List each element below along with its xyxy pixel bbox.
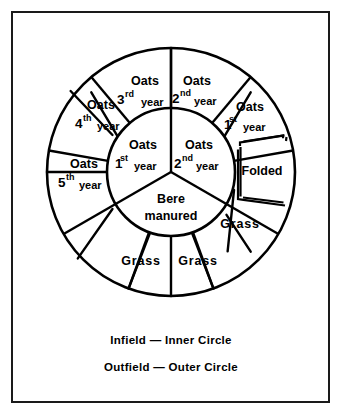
label-ordinal-suffix: nd	[182, 153, 193, 163]
label-main: Folded	[242, 164, 283, 178]
label-main: Oats	[131, 74, 159, 88]
label-sub: manured	[145, 209, 198, 223]
label-ordinal-suffix: th	[66, 172, 75, 182]
label-ordinal-suffix: nd	[180, 88, 191, 98]
label-unit: year	[141, 96, 164, 108]
label-main: Grass	[178, 254, 217, 268]
label-ordinal-number: 3	[117, 92, 125, 107]
label-ordinal-suffix: rd	[125, 89, 134, 99]
label-ordinal-suffix: st	[229, 114, 237, 124]
label-main: Oats	[87, 98, 115, 112]
label-ordinal-suffix: st	[120, 153, 128, 163]
outer-segment-label-folded: Folded	[242, 164, 283, 178]
label-unit: year	[79, 179, 102, 191]
figure-caption: Infield — Inner Circle Outfield — Outer …	[104, 334, 238, 373]
diagram-page: Oats 2 nd year Oats 1 st year Folded Gra…	[0, 0, 341, 414]
caption-line-infield: Infield — Inner Circle	[110, 334, 232, 346]
label-main: Grass	[220, 217, 259, 231]
label-unit: year	[194, 95, 217, 107]
label-ordinal-suffix: th	[83, 113, 92, 123]
label-unit: year	[134, 160, 157, 172]
label-unit: year	[97, 120, 120, 132]
label-main: Oats	[183, 74, 211, 88]
label-unit: year	[196, 160, 219, 172]
label-main: Oats	[236, 100, 264, 114]
label-main: Oats	[70, 157, 98, 171]
outer-segment-label-grass-1: Grass	[220, 217, 259, 231]
label-main: Grass	[121, 254, 160, 268]
label-main: Oats	[185, 138, 213, 152]
label-ordinal-number: 2	[172, 91, 180, 106]
rotation-wheel-figure: Oats 2 nd year Oats 1 st year Folded Gra…	[0, 0, 341, 414]
caption-line-outfield: Outfield — Outer Circle	[104, 361, 238, 373]
label-main: Oats	[129, 138, 157, 152]
label-unit: year	[243, 121, 266, 133]
outer-segment-label-grass-2: Grass	[178, 254, 217, 268]
label-ordinal-number: 5	[58, 175, 66, 190]
label-main: Bere	[157, 192, 185, 206]
label-ordinal-number: 2	[174, 156, 182, 171]
outer-segment-label-grass-3: Grass	[121, 254, 160, 268]
label-ordinal-number: 4	[75, 116, 83, 131]
